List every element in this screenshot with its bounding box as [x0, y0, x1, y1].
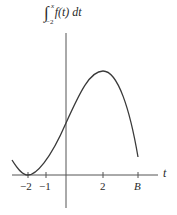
x-tick-label-B: B — [134, 180, 141, 192]
x-tick-label-neg1: −1 — [39, 180, 51, 192]
integral-lower-limit: −2 — [46, 18, 53, 26]
x-tick-label-2: 2 — [100, 180, 106, 192]
integral-upper-limit: x — [51, 2, 54, 10]
y-axis-label: ∫ x −2 f(t) dt — [44, 1, 82, 21]
integral-curve — [12, 71, 138, 175]
x-tick-label-neg2: −2 — [20, 180, 32, 192]
x-axis-label: t — [163, 166, 166, 181]
integrand: f(t) dt — [55, 5, 82, 19]
